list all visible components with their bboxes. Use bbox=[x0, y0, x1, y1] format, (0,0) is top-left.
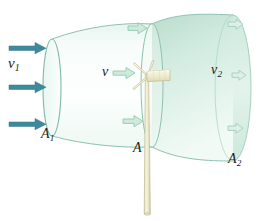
label-a1-subscript: 1 bbox=[50, 133, 55, 143]
label-a2-subscript: 2 bbox=[237, 158, 242, 168]
figure-canvas: v1 A1 v A v2 A2 bbox=[0, 0, 267, 221]
label-a: A bbox=[133, 141, 142, 155]
stream-tube-illustration bbox=[0, 0, 267, 221]
inlet-arrow-top bbox=[9, 43, 46, 54]
label-a2-symbol: A bbox=[228, 151, 237, 166]
label-a1: A1 bbox=[41, 127, 54, 143]
downstream-cone bbox=[152, 14, 251, 161]
label-a2: A2 bbox=[228, 152, 241, 168]
label-v1: v1 bbox=[8, 56, 20, 73]
label-a1-symbol: A bbox=[41, 126, 50, 141]
label-v: v bbox=[102, 65, 108, 79]
label-v-symbol: v bbox=[102, 64, 108, 79]
label-v1-symbol: v bbox=[8, 55, 15, 71]
inlet-arrow-middle bbox=[9, 82, 46, 93]
label-v2-subscript: 2 bbox=[217, 69, 222, 79]
tower-base-cap bbox=[144, 213, 150, 215]
label-a-symbol: A bbox=[133, 140, 142, 155]
disk-area-ellipse bbox=[141, 24, 163, 148]
label-v2: v2 bbox=[211, 63, 222, 79]
label-v1-subscript: 1 bbox=[15, 62, 20, 73]
cone-body bbox=[152, 14, 233, 161]
turbine-nacelle bbox=[147, 70, 170, 82]
turbine-disk-area bbox=[141, 24, 163, 148]
